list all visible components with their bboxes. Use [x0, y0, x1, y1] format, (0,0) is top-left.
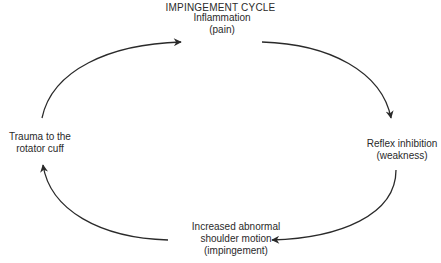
arrow-motion-to-trauma	[43, 165, 168, 240]
node-trauma: Trauma to the rotator cuff	[0, 131, 84, 155]
node-motion-line-1: Increased abnormal	[170, 221, 302, 233]
node-inflammation: Inflammation (pain)	[172, 12, 272, 36]
node-reflex-inhibition: Reflex inhibition (weakness)	[356, 138, 441, 162]
node-trauma-line-2: rotator cuff	[0, 143, 84, 155]
node-inflammation-line-1: Inflammation	[172, 12, 272, 24]
arrow-trauma-to-inflammation	[42, 42, 181, 118]
node-abnormal-motion: Increased abnormal shoulder motion (impi…	[170, 221, 302, 257]
node-motion-line-3: (impingement)	[170, 245, 302, 257]
arrow-inflammation-to-reflex	[262, 42, 391, 118]
node-trauma-line-1: Trauma to the	[0, 131, 84, 143]
node-motion-line-2: shoulder motion	[170, 233, 302, 245]
node-inflammation-line-2: (pain)	[172, 24, 272, 36]
node-reflex-line-1: Reflex inhibition	[356, 138, 441, 150]
node-reflex-line-2: (weakness)	[356, 150, 441, 162]
